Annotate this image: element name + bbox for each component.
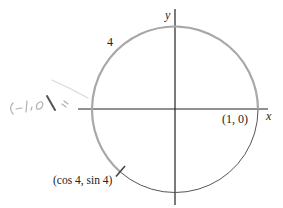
arc-length-label: 4 — [107, 35, 113, 49]
y-axis-label: y — [164, 8, 171, 22]
unit-circle-diagram: y x 4 (1, 0) (cos 4, sin 4) — [0, 0, 283, 208]
terminal-point-label: (cos 4, sin 4) — [53, 174, 113, 187]
handwritten-annotation — [11, 80, 89, 114]
start-point-label: (1, 0) — [222, 112, 248, 126]
x-axis-label: x — [265, 109, 272, 123]
